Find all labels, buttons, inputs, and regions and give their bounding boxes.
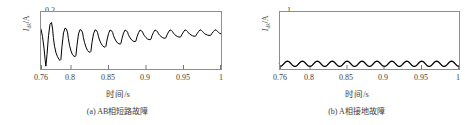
panel-caption-a: (a) AB相短路故障 xyxy=(10,105,225,116)
x-tick-b-2: 0.85 xyxy=(339,73,353,82)
x-tick-b-5: 1 xyxy=(456,73,460,82)
x-tick-a-1: 0.8 xyxy=(65,73,75,82)
plot-area-b[interactable] xyxy=(279,11,460,70)
panel-caption-b: (b) A相接地故障 xyxy=(249,105,464,116)
x-tick-b-1: 0.8 xyxy=(304,73,314,82)
x-tick-b-3: 0.9 xyxy=(378,73,388,82)
x-tick-b-4: 0.95 xyxy=(414,73,428,82)
y-axis-label-a-symbol: I xyxy=(22,29,31,32)
y-axis-label-b-unit: /A xyxy=(261,15,270,23)
x-tick-a-0: 0.76 xyxy=(34,73,48,82)
chart-panel-a: Idk/A 0.2 0 -0.4 0.76 xyxy=(0,0,237,125)
waveform-svg-b xyxy=(280,12,459,69)
y-axis-label-b-subscript: dk xyxy=(265,23,271,28)
y-axis-label-a: Idk/A xyxy=(22,0,33,46)
x-axis-label-a: 时间/s xyxy=(18,87,218,99)
y-axis-label-a-subscript: dk xyxy=(26,23,32,28)
y-axis-label-b-symbol: I xyxy=(261,29,270,32)
y-axis-label-b: Idk/A xyxy=(261,0,272,46)
x-tick-a-3: 0.9 xyxy=(140,73,150,82)
plot-area-a[interactable] xyxy=(40,11,222,70)
x-axis-label-b: 时间/s xyxy=(257,87,457,99)
x-tick-a-2: 0.85 xyxy=(101,73,115,82)
waveform-line-a xyxy=(41,22,221,66)
waveform-line-b xyxy=(280,61,459,66)
x-tick-a-5: 1 xyxy=(219,73,223,82)
x-tick-marks-a xyxy=(42,65,221,69)
y-axis-label-a-unit: /A xyxy=(22,15,31,23)
chart-panel-b: Idk/A 1 0 -0.1 0.76 0.8 xyxy=(237,0,474,125)
waveform-svg-a xyxy=(41,12,221,69)
figure-container: Idk/A 0.2 0 -0.4 0.76 xyxy=(0,0,475,125)
x-tick-b-0: 0.76 xyxy=(273,73,287,82)
x-tick-a-4: 0.95 xyxy=(176,73,190,82)
